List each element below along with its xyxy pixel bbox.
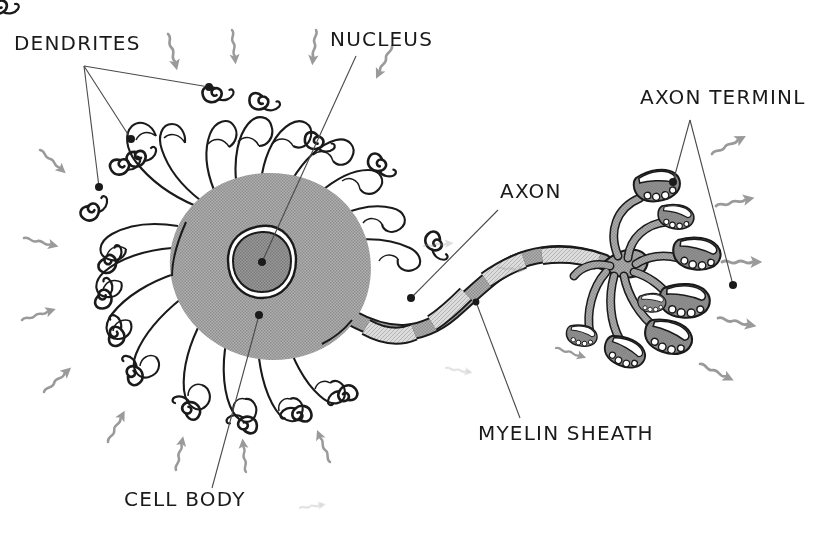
label-axon-terminal: AXON TERMINL — [640, 85, 806, 109]
label-dendrites: DENDRITES — [14, 31, 141, 55]
neuron-diagram-figure: DENDRITES NUCLEUS AXON TERMINL AXON MYEL… — [0, 0, 830, 538]
neuron-diagram-canvas: DENDRITES NUCLEUS AXON TERMINL AXON MYEL… — [0, 0, 830, 538]
label-nucleus: NUCLEUS — [330, 27, 433, 51]
label-cell-body: CELL BODY — [124, 487, 246, 511]
label-myelin-sheath: MYELIN SHEATH — [478, 421, 654, 445]
label-axon: AXON — [500, 179, 562, 203]
